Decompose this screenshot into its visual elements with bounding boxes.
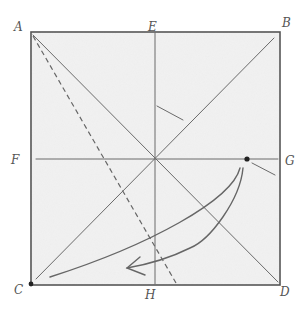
label-c: C — [14, 283, 23, 297]
origami-diagram: A E B F G C H D — [0, 0, 303, 310]
label-b: B — [281, 16, 291, 30]
label-e: E — [147, 20, 157, 34]
label-a: A — [13, 20, 23, 34]
label-g: G — [285, 154, 295, 168]
label-h: H — [144, 288, 156, 302]
label-d: D — [279, 285, 290, 299]
dot-c — [29, 282, 34, 287]
dot-g — [244, 156, 249, 161]
label-f: F — [10, 153, 20, 167]
